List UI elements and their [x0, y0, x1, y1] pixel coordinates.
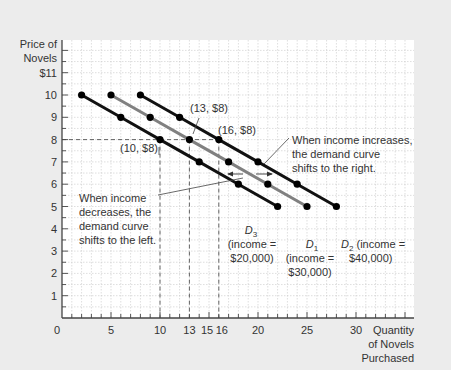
annotation-income-increase: shifts to the right. [292, 162, 376, 174]
data-point [186, 136, 193, 143]
curve-label-d3-income: $20,000) [230, 252, 273, 264]
data-point [303, 203, 310, 210]
y-tick-label: 7 [51, 156, 57, 168]
curve-label-d1-income: $30,000) [288, 266, 331, 278]
x-axis-label: Quantity [373, 324, 414, 336]
y-axis-label: Price of [20, 38, 58, 50]
annotation-income-decrease: decreases, the [79, 206, 151, 218]
x-tick-label: 10 [154, 324, 166, 336]
y-tick-label: 8 [51, 134, 57, 146]
annotation-income-decrease: When income [79, 192, 146, 204]
y-tick-label: 2 [51, 267, 57, 279]
data-point [147, 114, 154, 121]
annotation-income-increase: the demand curve [292, 148, 380, 160]
x-tick-label: 30 [350, 324, 362, 336]
data-point [107, 91, 114, 98]
annotation-income-decrease: demand curve [79, 220, 149, 232]
curve-label-d3-income: (income = [228, 238, 277, 250]
annotation-income-increase: When income increases, [292, 134, 412, 146]
y-tick-label: 6 [51, 178, 57, 190]
point-label-16-8: (16, $8) [218, 124, 256, 136]
point-label-13-8: (13, $8) [190, 102, 228, 114]
x-tick-label: 25 [301, 324, 313, 336]
x-axis-label: of Novels [368, 338, 414, 350]
annotation-income-decrease: shifts to the left. [79, 234, 156, 246]
x-tick-label: 15 [201, 324, 213, 336]
data-point [254, 158, 261, 165]
y-tick-label: 4 [51, 223, 57, 235]
x-tick-label: 5 [108, 324, 114, 336]
data-point [117, 114, 124, 121]
data-point [333, 203, 340, 210]
point-label-10-8: (10, $8) [120, 142, 158, 154]
x-tick-label: 20 [252, 324, 264, 336]
x-tick-label: 0 [54, 324, 60, 336]
y-axis-label: Novels [23, 52, 57, 64]
data-point [196, 158, 203, 165]
data-point [215, 136, 222, 143]
y-tick-label: 3 [51, 245, 57, 257]
curve-label-d2-income: $40,000) [349, 252, 392, 264]
y-tick-label: $11 [39, 67, 57, 79]
data-point [274, 203, 281, 210]
data-point [264, 181, 271, 188]
x-axis-label: Purchased [361, 352, 414, 364]
data-point [176, 114, 183, 121]
data-point [294, 181, 301, 188]
y-tick-label: 10 [45, 89, 57, 101]
data-point [137, 91, 144, 98]
y-tick-label: 9 [51, 111, 57, 123]
x-tick-label: 16 [216, 324, 228, 336]
data-point [78, 91, 85, 98]
demand-shift-chart: 12345678910$110510131516202530Price ofNo… [0, 0, 465, 386]
data-point [235, 181, 242, 188]
curve-label-d1-income: (income = [286, 252, 335, 264]
x-tick-label: 13 [183, 324, 195, 336]
y-tick-label: 5 [51, 201, 57, 213]
y-tick-label: 1 [51, 290, 57, 302]
data-point [225, 158, 232, 165]
